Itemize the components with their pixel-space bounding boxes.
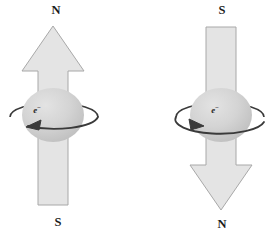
electron-sphere-up <box>22 88 84 142</box>
figure-canvas: e− N S e− S N <box>0 0 270 236</box>
pole-label-south-up: S <box>54 215 61 229</box>
pole-label-south-down: S <box>218 3 225 17</box>
pole-label-north-up: N <box>51 3 60 17</box>
spin-down-diagram: e− S N <box>175 3 264 231</box>
electron-spin-figure: e− N S e− S N <box>0 0 270 236</box>
pole-label-north-down: N <box>217 217 226 231</box>
spin-up-diagram: e− N S <box>10 3 98 229</box>
